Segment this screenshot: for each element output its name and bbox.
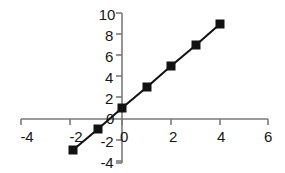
y-tick-label: 4 bbox=[105, 70, 113, 85]
data-point-marker bbox=[216, 20, 225, 29]
x-tick-label: 6 bbox=[264, 129, 272, 144]
y-tick-label: -4 bbox=[101, 155, 114, 170]
x-tick-label: 2 bbox=[169, 129, 177, 144]
y-tick-label: 8 bbox=[105, 28, 113, 43]
y-tick-label: 10 bbox=[99, 7, 115, 22]
data-point-marker bbox=[167, 62, 176, 71]
data-point-marker bbox=[69, 146, 78, 155]
x-axis bbox=[21, 119, 268, 125]
chart-container: -4 -2 0 2 4 6 10 8 6 4 2 0 -2 -4 bbox=[0, 0, 285, 173]
y-tick-label-zero: 0 bbox=[106, 111, 114, 126]
x-tick-label: 4 bbox=[217, 129, 225, 144]
x-tick-label: -2 bbox=[70, 129, 83, 144]
y-tick-label: 2 bbox=[105, 91, 113, 106]
chart-plot-area bbox=[0, 0, 285, 173]
x-tick-label: 0 bbox=[120, 129, 128, 144]
x-tick-label: -4 bbox=[21, 129, 34, 144]
y-tick-label: -2 bbox=[101, 134, 114, 149]
y-tick-label: 6 bbox=[105, 49, 113, 64]
data-point-marker bbox=[118, 104, 127, 113]
data-point-marker bbox=[143, 83, 152, 92]
data-point-marker bbox=[192, 41, 201, 50]
